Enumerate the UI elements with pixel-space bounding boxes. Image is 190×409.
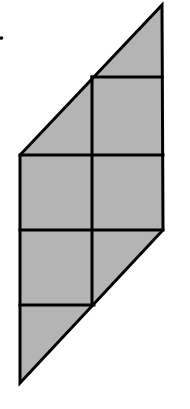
parallelogram-grid-diagram <box>0 0 190 409</box>
